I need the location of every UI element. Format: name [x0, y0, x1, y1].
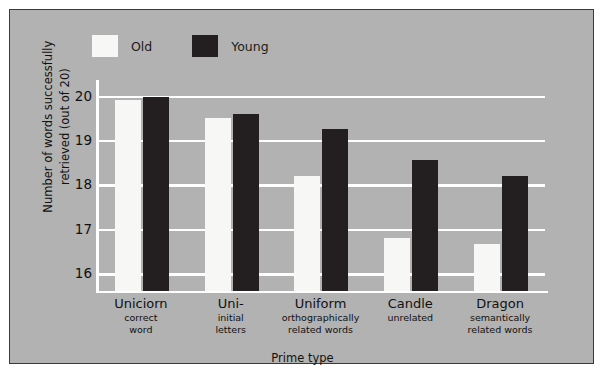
- bar-group: [365, 80, 455, 291]
- y-tick-label-19: 19: [62, 132, 92, 148]
- y-tick-label-16: 16: [62, 265, 92, 281]
- y-tick-label-17: 17: [62, 221, 92, 237]
- x-label-group: Uniciorncorrectword: [96, 296, 186, 336]
- bar-young-0: [143, 97, 169, 291]
- bar-old-0: [115, 100, 141, 291]
- bar-chart-figure: Old Young Number of words successfully r…: [0, 0, 603, 373]
- x-axis-category-labels: UniciorncorrectwordUni-initiallettersUni…: [96, 296, 548, 346]
- x-label-sub: initial: [186, 312, 276, 324]
- x-label-group: Uniformorthographicallyrelated words: [276, 296, 366, 336]
- x-label-sub: letters: [186, 324, 276, 336]
- x-label-main: Uniciorn: [96, 296, 186, 312]
- legend-swatch-young-icon: [192, 35, 218, 57]
- x-label-group: Candleunrelated: [365, 296, 455, 324]
- bar-young-1: [233, 114, 259, 291]
- bar-old-1: [205, 118, 231, 291]
- legend-item-old: Old: [92, 35, 152, 57]
- x-label-group: Uni-initialletters: [186, 296, 276, 336]
- y-tick-label-20: 20: [62, 88, 92, 104]
- plot-area: [96, 80, 545, 291]
- bar-young-4: [502, 176, 528, 291]
- x-label-main: Dragon: [455, 296, 545, 312]
- x-label-sub: correct: [96, 312, 186, 324]
- bar-group: [96, 80, 186, 291]
- x-label-main: Candle: [365, 296, 455, 312]
- y-tick-label-18: 18: [62, 176, 92, 192]
- bar-group: [186, 80, 276, 291]
- x-label-sub: related words: [455, 324, 545, 336]
- legend-swatch-old-icon: [92, 35, 118, 57]
- chart-panel: Old Young Number of words successfully r…: [9, 9, 594, 364]
- bar-old-2: [294, 176, 320, 291]
- bar-old-4: [474, 244, 500, 291]
- x-label-main: Uni-: [186, 296, 276, 312]
- x-label-group: Dragonsemanticallyrelated words: [455, 296, 545, 336]
- x-label-sub: orthographically: [276, 312, 366, 324]
- legend-label-old: Old: [131, 39, 152, 54]
- bar-group: [276, 80, 366, 291]
- x-axis-title: Prime type: [10, 351, 595, 365]
- bar-old-3: [384, 238, 410, 291]
- chart-legend: Old Young: [92, 33, 269, 59]
- y-axis-tick-labels: 2019181716: [54, 80, 92, 291]
- x-label-sub: semantically: [455, 312, 545, 324]
- bar-young-2: [322, 129, 348, 291]
- bar-young-3: [412, 160, 438, 291]
- x-label-sub: related words: [276, 324, 366, 336]
- legend-item-young: Young: [192, 35, 268, 57]
- x-label-sub: word: [96, 324, 186, 336]
- x-label-sub: unrelated: [365, 312, 455, 324]
- bar-group: [455, 80, 545, 291]
- x-label-main: Uniform: [276, 296, 366, 312]
- legend-label-young: Young: [231, 39, 268, 54]
